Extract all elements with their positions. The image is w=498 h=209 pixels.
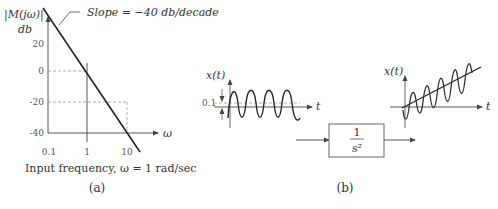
input-time-label: t <box>316 100 321 113</box>
block-denominator: s² <box>352 142 362 155</box>
input-sinusoid <box>228 90 300 120</box>
x-tick-10: 10 <box>121 147 133 157</box>
magnitude-line <box>43 8 140 152</box>
transfer-function-block: 1 s² <box>296 124 415 157</box>
slope-annotation: Slope = −40 db/decade <box>87 6 219 19</box>
slope-leader <box>59 12 80 25</box>
input-frequency-note: Input frequency, ω = 1 rad/sec <box>25 162 197 175</box>
input-signal-label: x(t) <box>206 69 225 82</box>
output-growing-sinusoid <box>403 64 472 119</box>
y-axis-label-bottom: db <box>18 23 32 36</box>
x-tick-0-1: 0.1 <box>42 147 56 157</box>
caption-b: (b) <box>336 181 353 195</box>
y-tick-minus20: -20 <box>30 97 45 107</box>
x-tick-1: 1 <box>84 147 90 157</box>
x-axis-symbol: ω <box>163 127 172 140</box>
block-diagram-panel: x(t) 0.1 t 1 s² x(t) t (b) <box>202 64 491 195</box>
y-tick-20: 20 <box>33 39 45 49</box>
ramp-line <box>402 67 481 108</box>
output-signal-label: x(t) <box>384 65 403 78</box>
bode-plot-panel: Slope = −40 db/decade |M(jω)| db 20 0 -2… <box>4 6 219 195</box>
caption-a: (a) <box>89 181 106 195</box>
output-signal-plot: x(t) t <box>384 64 491 128</box>
y-tick-0: 0 <box>38 66 44 76</box>
block-numerator: 1 <box>354 126 361 139</box>
input-signal-plot: x(t) 0.1 t <box>202 69 321 128</box>
y-tick-minus40: -40 <box>30 128 45 138</box>
figure: Slope = −40 db/decade |M(jω)| db 20 0 -2… <box>0 0 498 209</box>
amplitude-label: 0.1 <box>202 98 216 108</box>
y-axis-label-top: |M(jω)| <box>4 8 44 22</box>
output-time-label: t <box>486 100 491 113</box>
